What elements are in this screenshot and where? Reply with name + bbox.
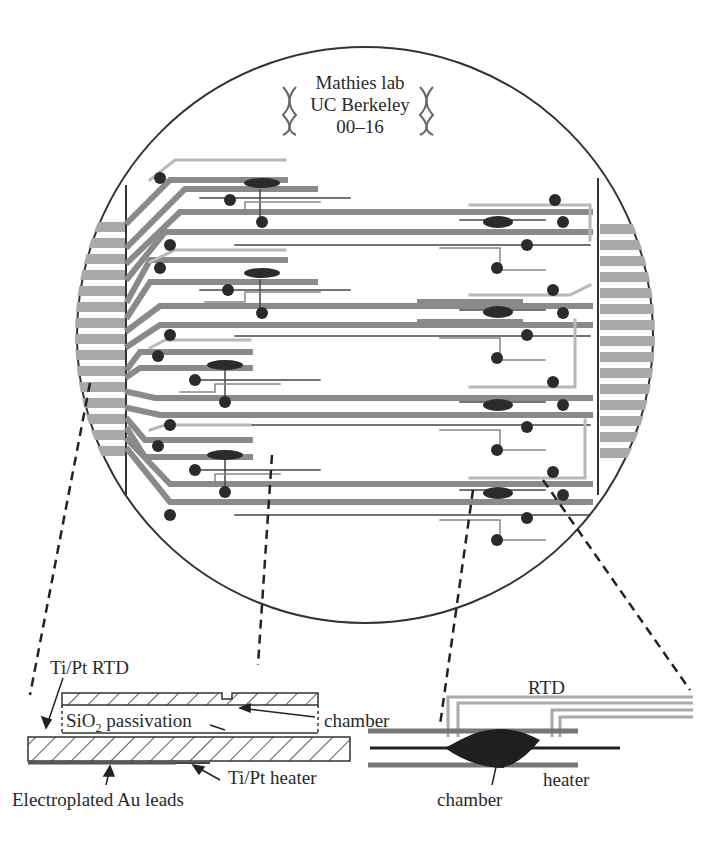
label-heater-top: heater: [543, 770, 589, 789]
label-chamber-cross: chamber: [324, 711, 389, 730]
left-contact-pads: [70, 222, 126, 456]
right-contact-pads: [600, 224, 670, 458]
label-chamber-top: chamber: [437, 790, 502, 809]
top-view-detail: [368, 697, 693, 785]
wafer-title: Mathies lab UC Berkeley 00–16: [300, 72, 420, 138]
wafer-id: 00–16: [300, 116, 420, 138]
label-rtd-cross: Ti/Pt RTD: [50, 658, 129, 677]
lab-name: Mathies lab: [300, 72, 420, 94]
label-heater-cross: Ti/Pt heater: [228, 768, 317, 787]
institution: UC Berkeley: [300, 94, 420, 116]
label-rtd-top: RTD: [528, 678, 565, 697]
label-passivation: SiO2 passivation: [66, 711, 192, 734]
label-au-leads: Electroplated Au leads: [12, 790, 184, 809]
